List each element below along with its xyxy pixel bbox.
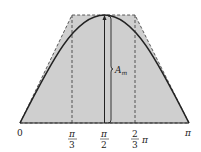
label-pi: π: [184, 128, 192, 138]
label-pi3-num: π: [68, 129, 76, 139]
sine-trapezoid-diagram: Am 0 π 3 π 2 2 3 π π: [0, 0, 201, 152]
label-2pi3-pi: π: [141, 135, 149, 145]
label-pi3-den: 3: [69, 140, 75, 150]
label-pi2-den: 2: [101, 140, 107, 150]
label-zero: 0: [17, 128, 23, 138]
label-2pi3-den: 3: [132, 140, 138, 150]
label-2pi3-num: 2: [132, 129, 138, 139]
label-pi2-num: π: [100, 129, 108, 139]
